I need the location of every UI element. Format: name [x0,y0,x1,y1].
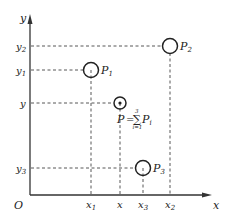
y2-label: y2 [15,41,27,54]
formula-lhs: P [116,113,125,126]
origin-label: O [14,199,23,212]
point-markers [84,39,178,176]
y-label: y [19,98,26,109]
point-labels: P2 P1 P3 [100,40,192,176]
y1-label: y1 [15,65,26,78]
y-axis-label: y [19,12,27,25]
y-tick-labels: y2 y1 y y3 [15,41,27,176]
x-label: x [117,199,123,210]
p-centroid-dot-icon [118,101,121,104]
p2-circle-icon [163,39,178,54]
x3-label: x3 [138,199,149,212]
x2-label: x2 [165,199,176,212]
p2-label: P2 [179,40,192,54]
y3-label: y3 [15,163,27,176]
x1-label: x1 [86,199,96,212]
p3-label: P3 [152,162,165,176]
p1-label: P1 [100,64,113,78]
x-axis-label: x [213,199,220,212]
centroid-formula: P = ∑ 3 i=1 Pi [116,108,152,130]
formula-lower-limit: i=1 [133,124,143,130]
x-tick-labels: x1 x x3 x2 [86,199,176,212]
formula-term: Pi [141,113,152,127]
formula-upper-limit: 3 [135,108,139,114]
x-axis-arrow-icon [202,193,212,198]
centroid-diagram: y x O y2 y1 y y3 x1 x x3 x2 P2 P1 P3 P =… [0,0,225,216]
y-axis-arrow-icon [28,14,33,24]
